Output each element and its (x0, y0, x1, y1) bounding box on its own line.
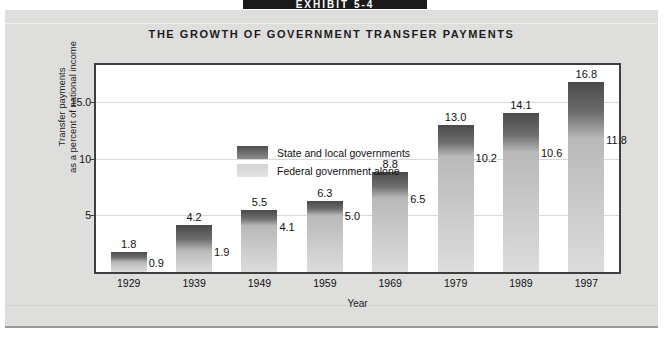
x-tick-label: 1929 (99, 277, 159, 289)
bar[interactable] (372, 172, 408, 272)
bar[interactable] (307, 201, 343, 272)
y-axis-title-line-1: Transfer payments (56, 27, 67, 187)
legend-swatch-federal-icon (237, 164, 268, 177)
y-axis-title-line-2: as a percent of national income (67, 27, 78, 187)
x-tick-label: 1969 (360, 277, 420, 289)
x-tick-label: 1949 (229, 277, 289, 289)
exhibit-tab: EXHIBIT 5-4 (243, 0, 427, 9)
x-tick-label: 1989 (491, 277, 551, 289)
bar-group[interactable]: 4.21.9 (176, 65, 212, 272)
figure-title: THE GROWTH OF GOVERNMENT TRANSFER PAYMEN… (5, 28, 658, 40)
bar-value-label-federal: 11.8 (606, 134, 640, 146)
bar-value-label-total: 5.5 (229, 196, 289, 208)
chart-legend: State and local governments Federal gove… (237, 146, 410, 182)
bar-value-label-total: 14.1 (491, 99, 551, 111)
legend-item-federal: Federal government alone (237, 164, 410, 177)
legend-item-state-and-local: State and local governments (237, 146, 410, 159)
y-tick-label: 5 (51, 209, 91, 221)
bar[interactable] (503, 113, 539, 272)
y-axis-title: Transfer payments as a percent of nation… (56, 27, 78, 187)
bar-value-label-total: 16.8 (556, 68, 616, 80)
bar[interactable] (241, 210, 277, 272)
legend-label-state-and-local: State and local governments (277, 147, 410, 159)
bar-group[interactable]: 16.811.8 (568, 65, 604, 272)
bar[interactable] (111, 252, 147, 272)
bar-value-label-total: 6.3 (295, 187, 355, 199)
bar[interactable] (568, 82, 604, 272)
bar[interactable] (438, 125, 474, 272)
bar-group[interactable]: 13.010.2 (438, 65, 474, 272)
x-axis-title: Year (94, 298, 621, 309)
bar[interactable] (176, 225, 212, 273)
x-tick-label: 1959 (295, 277, 355, 289)
legend-label-federal: Federal government alone (277, 165, 400, 177)
x-tick-label: 1939 (164, 277, 224, 289)
bar-group[interactable]: 14.110.6 (503, 65, 539, 272)
x-tick-label: 1997 (556, 277, 616, 289)
bar-value-label-total: 4.2 (164, 211, 224, 223)
legend-swatch-state-and-local-icon (237, 146, 268, 159)
bar-value-label-total: 1.8 (99, 238, 159, 250)
bar-group[interactable]: 1.80.9 (111, 65, 147, 272)
plot-area: 1.80.94.21.95.54.16.35.08.86.513.010.214… (94, 63, 621, 274)
panel-texture-band-top (5, 23, 658, 24)
x-tick-label: 1979 (426, 277, 486, 289)
bar-value-label-total: 13.0 (426, 111, 486, 123)
